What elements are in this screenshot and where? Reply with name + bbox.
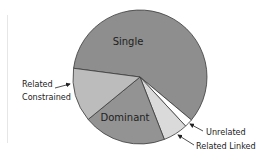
pie-slices xyxy=(73,10,207,144)
arrow-related-linked xyxy=(178,135,194,145)
label-single: Single xyxy=(113,36,144,47)
label-dominant: Dominant xyxy=(100,112,149,123)
arrow-unrelated xyxy=(190,124,203,131)
arrow-related-constrained xyxy=(55,84,70,88)
pie-chart: Single Dominant Related Constrained Unre… xyxy=(0,0,270,162)
label-related-constrained-2: Constrained xyxy=(22,92,71,102)
label-related-linked: Related Linked xyxy=(196,141,256,151)
label-unrelated: Unrelated xyxy=(206,127,246,137)
label-related-constrained-1: Related xyxy=(22,79,53,89)
